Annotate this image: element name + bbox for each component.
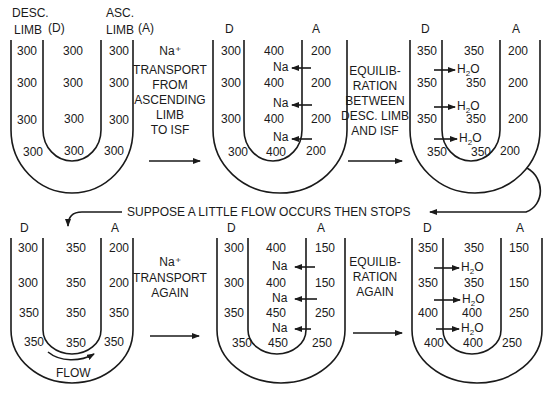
transition-curve-right bbox=[430, 168, 540, 212]
water-flux-label: H2O bbox=[457, 99, 479, 115]
desc-value: 350 bbox=[427, 145, 447, 159]
isf-value: 450 bbox=[268, 336, 288, 350]
desc-value: 300 bbox=[17, 76, 37, 90]
desc-value: 300 bbox=[224, 276, 244, 290]
caption-line: AGAIN bbox=[151, 286, 188, 300]
stage-na-transport-again: D A 300 300 350 350 400 400 450 450 150 … bbox=[217, 221, 345, 383]
isf-value: 350 bbox=[464, 276, 484, 290]
desc-limb-letter: D bbox=[421, 22, 430, 36]
caption-line: BETWEEN bbox=[345, 94, 404, 108]
isf-value: 350 bbox=[66, 276, 86, 290]
isf-value: 350 bbox=[66, 241, 86, 255]
caption-line: TRANSPORT bbox=[133, 63, 207, 77]
caption-na-transport-again: Na⁺ TRANSPORT AGAIN bbox=[133, 255, 207, 300]
desc-limb-abbrev: (D) bbox=[48, 21, 65, 35]
desc-value: 350 bbox=[418, 241, 438, 255]
stage-na-transport: D A 300 300 300 300 400 400 400 400 200 … bbox=[213, 22, 347, 193]
flow-arrow-icon bbox=[48, 352, 94, 360]
desc-value: 300 bbox=[17, 113, 37, 127]
asc-value: 150 bbox=[315, 276, 335, 290]
isf-value: 350 bbox=[464, 241, 484, 255]
asc-value: 200 bbox=[311, 44, 331, 58]
asc-value: 250 bbox=[315, 306, 335, 320]
isf-value: 400 bbox=[463, 336, 483, 350]
transition-caption: SUPPOSE A LITTLE FLOW OCCURS THEN STOPS bbox=[127, 205, 411, 219]
desc-value: 300 bbox=[18, 241, 38, 255]
caption-equilibration: EQUILIB- RATION BETWEEN DESC. LIMB AND I… bbox=[341, 64, 409, 138]
caption-equilibration-again: EQUILIB- RATION AGAIN bbox=[349, 255, 400, 299]
isf-value: 350 bbox=[66, 306, 86, 320]
isf-value: 400 bbox=[264, 112, 284, 126]
isf-value: 300 bbox=[64, 112, 84, 126]
desc-value: 300 bbox=[221, 44, 241, 58]
asc-value: 200 bbox=[306, 144, 326, 158]
asc-limb-label-line1: ASC. bbox=[106, 6, 134, 20]
isf-value: 400 bbox=[266, 241, 286, 255]
desc-limb-letter: D bbox=[20, 221, 29, 235]
na-flux-label: Na bbox=[273, 130, 289, 144]
caption-line: EQUILIB- bbox=[349, 64, 400, 78]
asc-value: 200 bbox=[109, 241, 129, 255]
desc-value: 300 bbox=[224, 241, 244, 255]
desc-value: 300 bbox=[228, 145, 248, 159]
asc-value: 350 bbox=[104, 335, 124, 349]
asc-value: 150 bbox=[509, 276, 529, 290]
water-flux-label: H2O bbox=[462, 292, 484, 308]
caption-line: DESC. LIMB bbox=[341, 109, 409, 123]
isf-value: 350 bbox=[466, 76, 486, 90]
stage-flow: D A 300 300 350 350 350 350 350 350 200 … bbox=[11, 221, 133, 383]
caption-line: AGAIN bbox=[356, 285, 393, 299]
stage-equilibration-again: D A 350 350 400 400 350 350 400 400 150 … bbox=[412, 221, 542, 383]
isf-value: 350 bbox=[66, 336, 86, 350]
asc-value: 200 bbox=[500, 144, 520, 158]
isf-value: 350 bbox=[464, 44, 484, 58]
desc-value: 350 bbox=[224, 306, 244, 320]
caption-na-transport: Na⁺ TRANSPORT FROM ASCENDING LIMB TO ISF bbox=[133, 44, 207, 137]
asc-limb-header: ASC. LIMB (A) bbox=[106, 6, 154, 37]
caption-line: TRANSPORT bbox=[133, 271, 207, 285]
asc-value: 300 bbox=[104, 144, 124, 158]
loop-inner-wall bbox=[43, 40, 101, 161]
asc-value: 300 bbox=[109, 76, 129, 90]
desc-value: 350 bbox=[417, 112, 437, 126]
isf-value: 300 bbox=[63, 44, 83, 58]
asc-limb-letter: A bbox=[317, 221, 325, 235]
isf-value: 450 bbox=[266, 306, 286, 320]
countercurrent-multiplier-diagram: DESC. LIMB (D) ASC. LIMB (A) 300 300 300… bbox=[0, 0, 548, 394]
isf-value: 400 bbox=[266, 276, 286, 290]
desc-limb-letter: D bbox=[225, 22, 234, 36]
na-flux-label: Na bbox=[272, 291, 288, 305]
caption-line: RATION bbox=[353, 79, 397, 93]
asc-limb-letter: A bbox=[512, 22, 520, 36]
asc-limb-abbrev: (A) bbox=[138, 21, 154, 35]
desc-value: 350 bbox=[232, 336, 252, 350]
isf-value: 400 bbox=[462, 306, 482, 320]
asc-value: 300 bbox=[109, 44, 129, 58]
asc-value: 250 bbox=[502, 336, 522, 350]
desc-value: 350 bbox=[418, 276, 438, 290]
caption-line: EQUILIB- bbox=[349, 255, 400, 269]
asc-value: 150 bbox=[509, 241, 529, 255]
desc-value: 350 bbox=[19, 306, 39, 320]
asc-value: 250 bbox=[509, 306, 529, 320]
water-flux-label: H2O bbox=[461, 321, 483, 337]
asc-value: 150 bbox=[315, 241, 335, 255]
na-flux-label: Na bbox=[273, 96, 289, 110]
desc-value: 300 bbox=[221, 76, 241, 90]
caption-line: AND ISF bbox=[351, 124, 398, 138]
asc-value: 200 bbox=[508, 112, 528, 126]
isf-value: 400 bbox=[266, 145, 286, 159]
na-flux-label: Na bbox=[272, 321, 288, 335]
flow-label: FLOW bbox=[56, 366, 91, 380]
caption-line: TO ISF bbox=[151, 123, 189, 137]
caption-line: RATION bbox=[353, 270, 397, 284]
desc-value: 350 bbox=[417, 76, 437, 90]
isf-value: 400 bbox=[264, 76, 284, 90]
desc-limb-header: DESC. LIMB (D) bbox=[12, 6, 65, 37]
stage-equilibration: D A 350 350 350 350 350 350 350 350 200 … bbox=[410, 22, 540, 193]
desc-value: 400 bbox=[418, 306, 438, 320]
na-flux-label: Na bbox=[272, 259, 288, 273]
asc-limb-label-line2: LIMB bbox=[106, 23, 134, 37]
water-flux-label: H2O bbox=[459, 131, 481, 147]
asc-value: 200 bbox=[508, 44, 528, 58]
